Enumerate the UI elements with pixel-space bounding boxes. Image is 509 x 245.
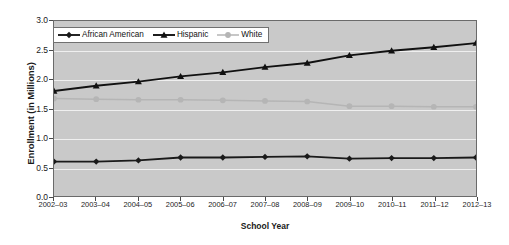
- x-axis-tick-mark: [477, 197, 478, 201]
- series-hispanic: [54, 40, 476, 94]
- legend-item-white[interactable]: White: [217, 30, 262, 40]
- x-axis-tick-mark: [223, 197, 224, 201]
- y-axis-tick-label: 0.5: [4, 163, 48, 173]
- x-axis-tick-label: 2006–07: [208, 200, 237, 209]
- legend-label: African American: [82, 31, 144, 39]
- data-point: [54, 158, 57, 164]
- data-point: [177, 154, 183, 160]
- data-point: [346, 156, 352, 162]
- x-axis-tick-mark: [180, 197, 181, 201]
- data-point: [473, 104, 476, 110]
- data-point: [136, 97, 142, 103]
- y-axis-tick-mark: [49, 168, 53, 169]
- y-axis-tick-label: 2.5: [4, 45, 48, 55]
- data-point: [304, 153, 310, 159]
- y-axis-tick-mark: [49, 138, 53, 139]
- series-canvas: [54, 21, 476, 196]
- x-axis-tick-label: 2009–10: [335, 200, 364, 209]
- x-axis-tick-label: 2011–12: [420, 200, 448, 209]
- legend-label: Hispanic: [177, 31, 208, 39]
- x-axis-tick-label: 2007–08: [251, 200, 280, 209]
- y-axis-tick-label: 2.0: [4, 74, 48, 84]
- y-axis-tick-label: 1.0: [4, 133, 48, 143]
- data-point: [389, 103, 395, 109]
- y-axis-tick-label: 1.5: [4, 104, 48, 114]
- x-axis-tick-mark: [95, 197, 96, 201]
- legend-label: White: [241, 31, 262, 39]
- circle-marker-icon: [217, 30, 239, 40]
- legend-item-african-american[interactable]: African American: [58, 30, 144, 40]
- diamond-marker-icon: [58, 30, 80, 40]
- x-axis-tick-label: 2004–05: [123, 200, 152, 209]
- data-point: [54, 96, 57, 102]
- triangle-marker-icon: [153, 30, 175, 40]
- series-african-american: [54, 153, 476, 165]
- legend-item-hispanic[interactable]: Hispanic: [153, 30, 208, 40]
- x-axis-tick-mark: [307, 197, 308, 201]
- x-axis-tick-label: 2010–11: [378, 200, 406, 209]
- x-axis-tick-mark: [265, 197, 266, 201]
- x-axis-tick-mark: [53, 197, 54, 201]
- x-axis-tick-label: 2005–06: [166, 200, 195, 209]
- series-white: [54, 96, 476, 110]
- plot-area: [53, 20, 477, 197]
- chart-legend: African AmericanHispanicWhite: [53, 27, 269, 43]
- x-axis-tick-mark: [350, 197, 351, 201]
- y-axis-tick-mark: [49, 20, 53, 21]
- x-axis-tick-mark: [138, 197, 139, 201]
- y-axis-tick-mark: [49, 109, 53, 110]
- data-point: [347, 103, 353, 109]
- x-axis-tick-mark: [392, 197, 393, 201]
- data-point: [473, 154, 476, 160]
- data-point: [431, 155, 437, 161]
- data-point: [220, 97, 226, 103]
- data-point: [135, 157, 141, 163]
- x-axis-tick-label: 2008–09: [293, 200, 322, 209]
- x-axis-tick-mark: [435, 197, 436, 201]
- data-point: [93, 96, 99, 102]
- data-point: [262, 98, 268, 104]
- x-axis-title: School Year: [53, 221, 477, 231]
- data-point: [262, 154, 268, 160]
- data-point: [304, 99, 310, 105]
- x-axis-tick-label: 2012–13: [463, 200, 492, 209]
- data-point: [178, 97, 184, 103]
- x-axis-tick-label: 2002–03: [39, 200, 68, 209]
- x-axis-tick-label: 2003–04: [81, 200, 110, 209]
- data-point: [220, 154, 226, 160]
- data-point: [93, 158, 99, 164]
- y-axis-tick-label: 3.0: [4, 15, 48, 25]
- data-point: [388, 155, 394, 161]
- y-axis-tick-mark: [49, 50, 53, 51]
- line-chart: Enrollment (in Millions) 0.00.51.01.52.0…: [0, 0, 509, 245]
- data-point: [431, 104, 437, 110]
- y-axis-tick-mark: [49, 79, 53, 80]
